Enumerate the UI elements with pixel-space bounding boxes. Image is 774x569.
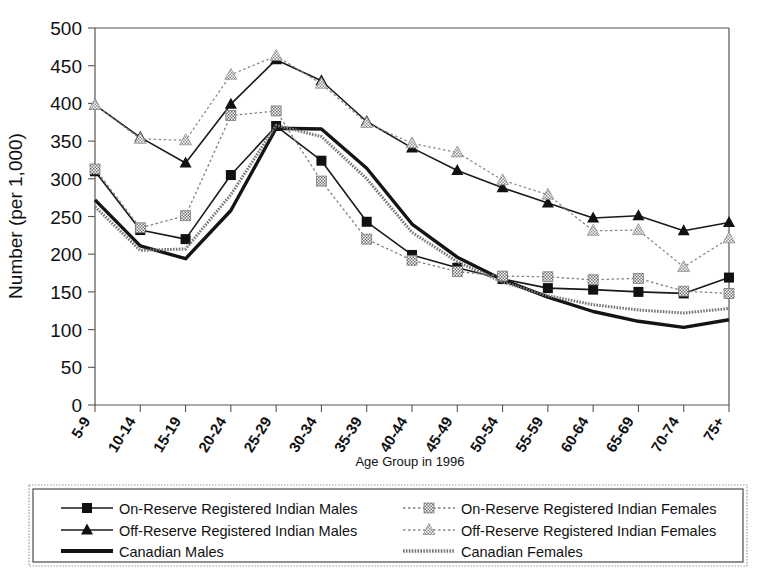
data-point	[724, 273, 734, 283]
data-point	[226, 110, 236, 120]
data-point	[632, 224, 644, 235]
x-tick-label: 30-34	[285, 413, 320, 455]
data-point	[679, 286, 689, 296]
data-point	[451, 164, 463, 175]
data-point	[135, 223, 145, 233]
y-tick-label: 350	[50, 131, 82, 152]
x-tick-label: 65-69	[602, 414, 637, 456]
data-point	[271, 106, 281, 116]
data-point	[587, 224, 599, 235]
x-tick-label: 75+	[700, 413, 728, 444]
series-3	[90, 106, 734, 298]
y-tick-label: 250	[50, 207, 82, 228]
y-tick-label: 400	[50, 93, 82, 114]
legend-label: On-Reserve Registered Indian Males	[119, 501, 358, 517]
data-point	[181, 211, 191, 221]
legend-marker-square-icon	[82, 503, 92, 513]
data-point	[588, 285, 598, 295]
y-tick-label: 0	[71, 395, 82, 416]
x-tick-label: 20-24	[195, 413, 230, 455]
x-tick-label: 5-9	[68, 414, 94, 441]
data-point	[362, 217, 372, 227]
x-tick-label: 70-74	[648, 413, 683, 455]
y-axis-title: Number (per 1,000)	[5, 133, 26, 299]
y-tick-label: 200	[50, 244, 82, 265]
y-tick-label: 450	[50, 56, 82, 77]
data-point	[225, 68, 237, 79]
data-point	[406, 137, 418, 148]
x-axis: 5-910-1415-1920-2425-2930-3435-3940-4445…	[68, 405, 729, 455]
x-tick-label: 55-59	[512, 414, 547, 456]
x-tick-label: 40-44	[376, 413, 411, 455]
data-point	[632, 209, 644, 220]
x-tick-label: 35-39	[331, 414, 366, 456]
data-point	[633, 273, 643, 283]
x-tick-label: 50-54	[466, 413, 501, 455]
x-tick-label: 60-64	[557, 413, 592, 455]
x-tick-label: 10-14	[104, 413, 139, 455]
y-tick-label: 150	[50, 282, 82, 303]
data-point	[543, 272, 553, 282]
data-point	[723, 232, 735, 243]
data-point	[588, 275, 598, 285]
data-point	[452, 267, 462, 277]
data-point	[180, 134, 192, 145]
data-point	[90, 164, 100, 174]
x-tick-label: 15-19	[149, 414, 184, 456]
data-point	[724, 288, 734, 298]
x-axis-title: Age Group in 1996	[355, 454, 464, 469]
legend-marker-square-hatched-icon	[424, 503, 434, 513]
data-point	[407, 255, 417, 265]
data-point	[633, 287, 643, 297]
y-tick-label: 100	[50, 320, 82, 341]
data-point	[497, 174, 509, 185]
line-chart: 050100150200250300350400450500 5-910-141…	[0, 0, 774, 569]
legend-label: Canadian Males	[119, 544, 224, 560]
legend-label: Off-Reserve Registered Indian Females	[461, 523, 716, 539]
chart-container: 050100150200250300350400450500 5-910-141…	[0, 0, 774, 569]
data-point	[678, 261, 690, 272]
y-tick-label: 50	[61, 357, 82, 378]
legend-label: Canadian Females	[461, 544, 583, 560]
y-tick-label: 500	[50, 18, 82, 39]
x-tick-label: 25-29	[240, 414, 275, 456]
data-point	[316, 176, 326, 186]
x-tick-label: 45-49	[421, 414, 456, 456]
legend-label: On-Reserve Registered Indian Females	[461, 501, 716, 517]
data-point	[181, 234, 191, 244]
data-series-group	[89, 49, 735, 327]
data-point	[226, 170, 236, 180]
chart-legend: On-Reserve Registered Indian MalesOff-Re…	[29, 485, 747, 566]
data-point	[270, 49, 282, 60]
data-point	[316, 156, 326, 166]
data-point	[543, 283, 553, 293]
data-point	[362, 234, 372, 244]
legend-label: Off-Reserve Registered Indian Males	[119, 523, 357, 539]
data-point	[723, 216, 735, 227]
y-tick-label: 300	[50, 169, 82, 190]
